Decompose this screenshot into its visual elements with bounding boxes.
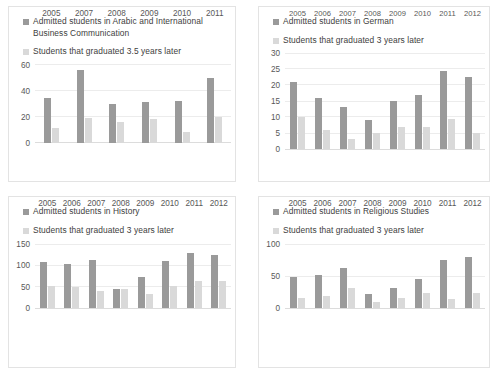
bar-group [207,244,232,308]
x-axis-tick-label: 2007 [335,199,360,208]
y-axis-tick-label: 50 [21,282,30,291]
y-axis: 050100150 [9,244,33,308]
x-axis-tick-label: 2012 [460,199,485,208]
legend-swatch-icon [23,49,29,55]
bar-graduated [323,130,330,149]
y-axis-tick-label: 150 [16,240,30,249]
y-axis-tick-label: 100 [16,261,30,270]
legend-swatch-icon [273,209,279,215]
x-axis-tick-label: 2010 [166,9,199,18]
x-axis-tick-label: 2006 [60,199,85,208]
bar-admitted [315,98,322,149]
x-axis-tick-label: 2011 [182,199,207,208]
bar-graduated [473,293,480,308]
y-axis-tick-label: 30 [271,49,280,58]
x-axis-tick-label: 2005 [35,9,68,18]
bar-admitted [207,78,214,143]
plot-area: 050100150 [9,244,235,308]
bar-group [35,244,60,308]
bar-group [460,244,485,308]
bar-admitted [77,70,84,143]
bar-admitted [390,101,397,149]
bar-graduated [398,127,405,149]
plot-area: 050100 [259,244,489,308]
legend-swatch-icon [23,19,29,25]
bar-graduated [85,118,92,143]
x-axis-tick-label: 2009 [133,199,158,208]
bar-graduated [97,291,104,308]
bar-group [335,244,360,308]
y-axis-tick-label: 5 [275,129,280,138]
bar-graduated [448,299,455,308]
legend-label-admitted: Admitted students in Arabic and Internat… [33,16,229,39]
bar-admitted [113,289,120,308]
bar-graduated [448,119,455,149]
bar-admitted [138,277,145,308]
y-axis-tick-label: 50 [271,272,280,281]
bar-group [100,65,133,143]
legend-label-graduated: Students that graduated 3 years later [33,225,174,237]
bar-graduated [219,281,226,308]
bar-admitted [44,98,51,142]
x-axis-tick-label: 2010 [410,199,435,208]
x-axis-tick-label: 2012 [460,9,485,18]
legend-item-graduated: Students that graduated 3 years later [23,225,229,237]
legend-item-graduated: Students that graduated 3 years later [273,225,483,237]
y-axis-tick-label: 10 [271,113,280,122]
x-axis: 200520072008200920102011 [35,9,231,18]
bar-admitted [340,107,347,149]
bar-graduated [348,139,355,149]
x-axis-tick-label: 2009 [133,9,166,18]
bar-admitted [175,101,182,143]
x-axis-tick-label: 2008 [100,9,133,18]
x-axis-tick-label: 2009 [385,9,410,18]
bar-group [285,244,310,308]
bar-admitted [211,255,218,308]
x-axis-tick-label: 2006 [310,199,335,208]
bar-admitted [89,260,96,308]
y-axis: 050100 [259,244,283,308]
bar-graduated [215,117,222,143]
x-axis: 20052006200720082009201020112012 [35,199,231,208]
x-axis-tick-label: 2010 [410,9,435,18]
chart-panel-german: Admitted students in German Students tha… [258,6,490,182]
y-axis-tick-label: 100 [266,240,280,249]
bar-graduated [48,286,55,308]
legend-swatch-icon [273,228,279,234]
x-axis-tick-label: 2005 [35,199,60,208]
y-axis-tick-label: 0 [25,304,30,313]
x-axis-tick-label: 2008 [109,199,134,208]
bar-group [133,65,166,143]
bar-group [35,65,68,143]
legend-item-admitted: Admitted students in Arabic and Internat… [23,16,229,39]
y-axis-tick-label: 25 [271,65,280,74]
bar-group [109,244,134,308]
x-axis-tick-label: 2008 [360,199,385,208]
x-axis: 20052006200720082009201020112012 [285,199,485,208]
bar-admitted [365,294,372,308]
bar-group [410,53,435,149]
x-axis-tick-label: 2007 [68,9,101,18]
legend-label-graduated: Students that graduated 3.5 years later [33,46,181,58]
plot-area: 0204060 [9,65,235,143]
bar-group [285,53,310,149]
x-axis-tick-label: 2011 [435,9,460,18]
bar-graduated [195,281,202,308]
bar-graduated [117,122,124,143]
bar-group [133,244,158,308]
bar-graduated [473,133,480,149]
bar-graduated [423,293,430,308]
bar-groups [285,244,485,308]
bar-admitted [109,104,116,143]
chart-panel-religious-studies: Admitted students in Religious Studies S… [258,196,490,368]
legend-item-graduated: Students that graduated 3.5 years later [23,46,229,58]
bar-graduated [348,288,355,308]
bar-admitted [187,253,194,308]
bar-group [310,53,335,149]
y-axis-tick-label: 40 [21,86,30,95]
y-axis-tick-label: 0 [25,138,30,147]
x-axis-tick-label: 2005 [285,199,310,208]
bar-graduated [298,298,305,308]
bar-admitted [415,279,422,308]
bar-admitted [40,262,47,308]
